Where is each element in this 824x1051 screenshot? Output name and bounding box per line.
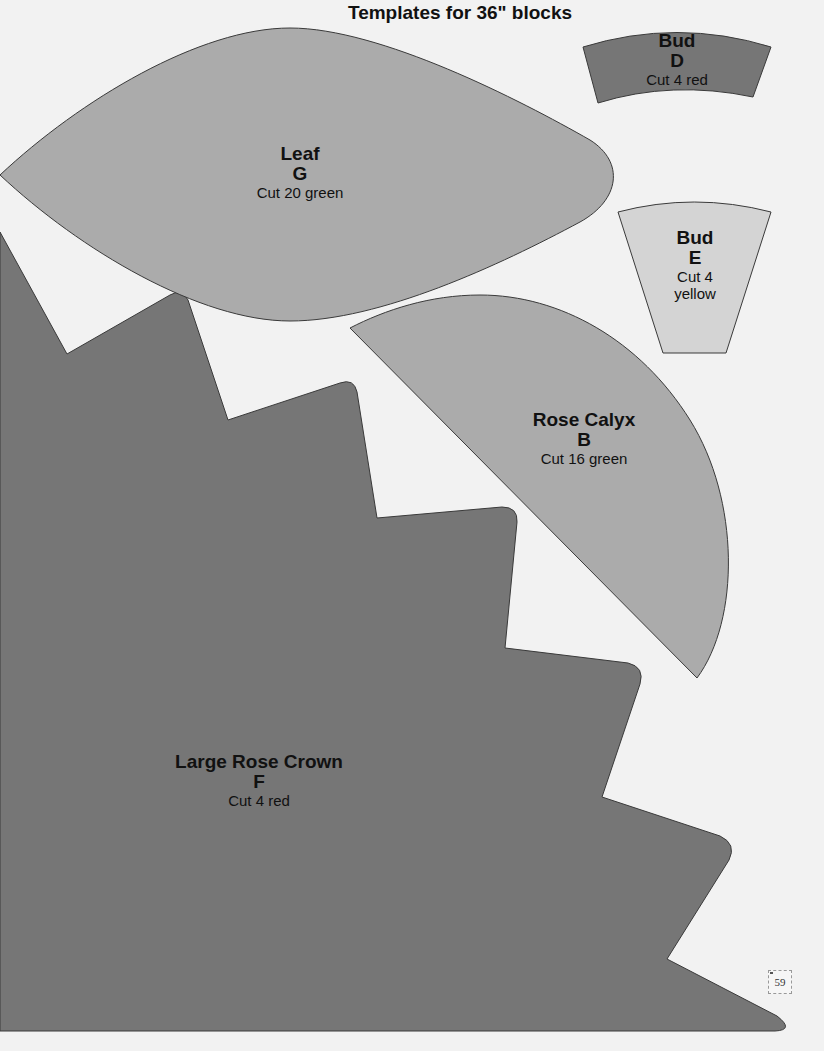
template-name: Leaf	[257, 144, 344, 164]
rose-calyx-b-label: Rose Calyx B Cut 16 green	[533, 410, 635, 467]
leaf-g-label: Leaf G Cut 20 green	[257, 144, 344, 201]
large-rose-crown-f-label: Large Rose Crown F Cut 4 red	[175, 752, 343, 809]
template-name: Bud	[646, 31, 708, 51]
cut-instruction-line2: yellow	[674, 286, 716, 302]
template-letter: E	[674, 248, 716, 268]
template-letter: G	[257, 164, 344, 184]
template-name: Bud	[674, 228, 716, 248]
template-name: Rose Calyx	[533, 410, 635, 430]
cut-instruction: Cut 16 green	[533, 451, 635, 467]
template-letter: F	[175, 772, 343, 792]
template-letter: D	[646, 51, 708, 71]
template-shapes	[0, 0, 824, 1051]
cut-instruction: Cut 4	[674, 269, 716, 285]
page-title: Templates for 36" blocks	[348, 2, 572, 24]
bud-e-label: Bud E Cut 4 yellow	[674, 228, 716, 301]
cut-instruction: Cut 4 red	[175, 793, 343, 809]
template-letter: B	[533, 430, 635, 450]
page-number: 59	[768, 970, 792, 994]
cut-instruction: Cut 4 red	[646, 72, 708, 88]
cut-instruction: Cut 20 green	[257, 185, 344, 201]
template-page: Templates for 36" blocks Bud D Cut 4 red…	[0, 0, 824, 1051]
bud-d-label: Bud D Cut 4 red	[646, 31, 708, 88]
template-name: Large Rose Crown	[175, 752, 343, 772]
